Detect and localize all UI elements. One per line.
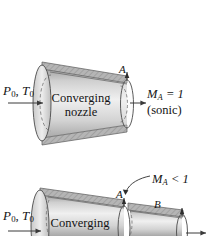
figure-container: P0, T0 Converging nozzle A MA = 1 (sonic… xyxy=(0,0,212,236)
bottom-nozzle-caption: Converging xyxy=(42,216,118,230)
bottom-mach-relation: < 1 xyxy=(168,172,189,186)
bottom-plane-A-label: A xyxy=(116,189,123,201)
bottom-inlet-flow-arrow xyxy=(8,229,41,234)
top-exit-mach-label: MA = 1 xyxy=(147,88,184,102)
top-inlet-stagnation-label: P0, T0 xyxy=(3,84,34,100)
top-inlet-T-subscript: 0 xyxy=(29,89,34,99)
bottom-mach-leader-arrowhead xyxy=(123,189,129,195)
bottom-inlet-P-symbol: P xyxy=(3,208,11,223)
top-nozzle-caption-line1: Converging xyxy=(45,91,117,105)
top-plane-A-label: A xyxy=(119,64,126,76)
bottom-plane-B-label: B xyxy=(154,199,161,211)
top-nozzle-caption: Converging nozzle xyxy=(45,91,117,119)
top-inlet-flow-arrow xyxy=(8,100,43,105)
top-nozzle-caption-line2: nozzle xyxy=(45,105,117,119)
bottom-inlet-stagnation-label: P0, T0 xyxy=(3,209,34,225)
top-mach-relation: = 1 xyxy=(163,87,184,101)
top-inlet-P-symbol: P xyxy=(3,83,11,98)
bottom-inlet-T-subscript: 0 xyxy=(29,214,34,224)
top-exit-sonic-note: (sonic) xyxy=(147,104,182,117)
bottom-exit-flow-arrow xyxy=(186,231,206,236)
bottom-exit-mach-label: MA < 1 xyxy=(152,173,189,187)
bottom-mach-leader-curve xyxy=(126,176,150,192)
bottom-nozzle-caption-line1: Converging xyxy=(42,216,118,230)
top-mach-symbol: M xyxy=(147,87,157,101)
bottom-mach-symbol: M xyxy=(152,172,162,186)
